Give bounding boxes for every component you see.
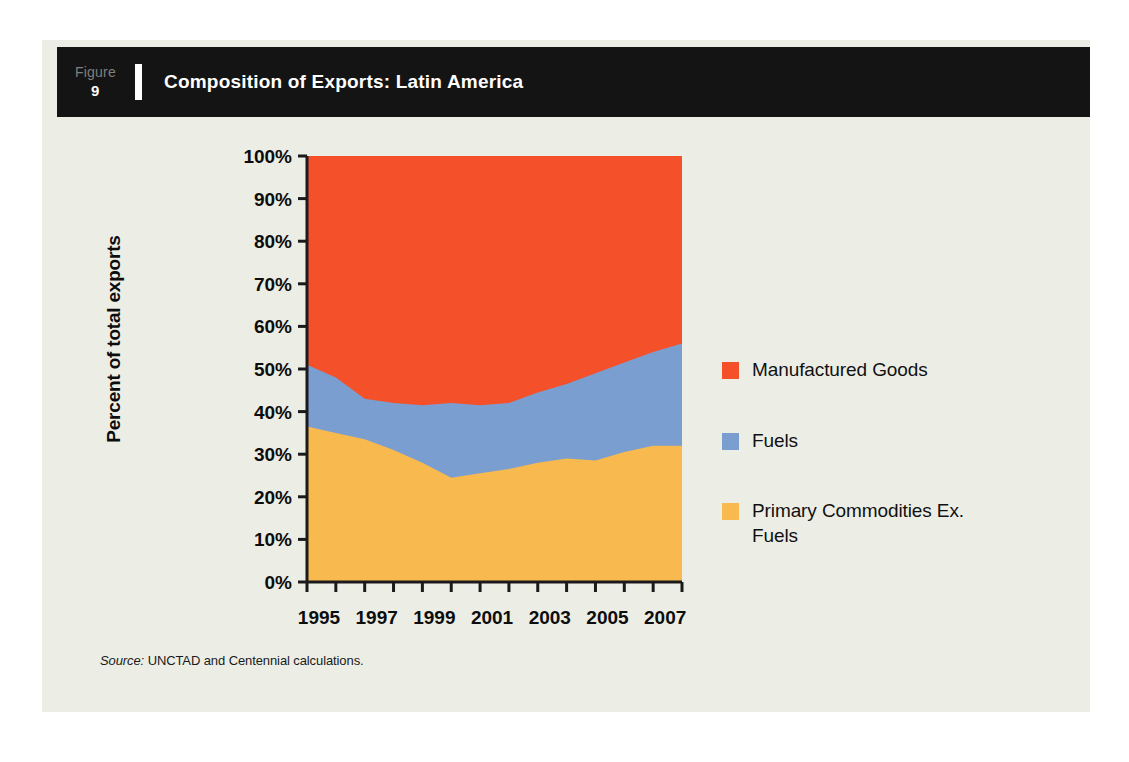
svg-text:80%: 80%: [254, 231, 292, 252]
svg-text:2003: 2003: [529, 607, 571, 628]
legend-label-primary-commodities: Primary Commodities Ex. Fuels: [752, 499, 982, 548]
figure-title: Composition of Exports: Latin America: [164, 71, 523, 93]
svg-text:1997: 1997: [356, 607, 398, 628]
svg-text:50%: 50%: [254, 359, 292, 380]
figure-number: 9: [91, 83, 135, 99]
legend-swatch-primary-commodities: [722, 503, 739, 520]
svg-text:100%: 100%: [243, 146, 292, 167]
svg-text:1999: 1999: [413, 607, 455, 628]
svg-text:2001: 2001: [471, 607, 514, 628]
legend-swatch-fuels: [722, 433, 739, 450]
chart-legend: Manufactured Goods Fuels Primary Commodi…: [722, 358, 1042, 595]
svg-text:30%: 30%: [254, 444, 292, 465]
y-axis-title: Percent of total exports: [103, 209, 125, 469]
svg-text:40%: 40%: [254, 402, 292, 423]
source-text: UNCTAD and Centennial calculations.: [148, 653, 364, 668]
figure-header-banner: Figure 9 Composition of Exports: Latin A…: [57, 47, 1090, 117]
svg-text:70%: 70%: [254, 274, 292, 295]
legend-item-primary-commodities: Primary Commodities Ex. Fuels: [722, 499, 1042, 548]
svg-text:2005: 2005: [586, 607, 629, 628]
legend-item-manufactured-goods: Manufactured Goods: [722, 358, 1042, 383]
legend-swatch-manufactured-goods: [722, 362, 739, 379]
svg-text:90%: 90%: [254, 189, 292, 210]
svg-text:0%: 0%: [265, 572, 293, 593]
stacked-area-chart: 0%10%20%30%40%50%60%70%80%90%100%1995199…: [152, 138, 712, 638]
chart-area: Percent of total exports 0%10%20%30%40%5…: [42, 118, 1090, 678]
legend-label-manufactured-goods: Manufactured Goods: [752, 358, 928, 383]
svg-text:2007: 2007: [644, 607, 686, 628]
svg-text:1995: 1995: [298, 607, 341, 628]
legend-label-fuels: Fuels: [752, 429, 798, 454]
svg-text:20%: 20%: [254, 487, 292, 508]
figure-panel: Figure 9 Composition of Exports: Latin A…: [42, 40, 1090, 712]
header-divider-rule: [135, 64, 142, 100]
legend-item-fuels: Fuels: [722, 429, 1042, 454]
figure-word-label: Figure: [75, 65, 135, 80]
source-note: Source: UNCTAD and Centennial calculatio…: [100, 653, 364, 668]
svg-text:60%: 60%: [254, 316, 292, 337]
source-prefix: Source:: [100, 653, 144, 668]
figure-number-block: Figure 9: [57, 65, 135, 98]
svg-text:10%: 10%: [254, 529, 292, 550]
